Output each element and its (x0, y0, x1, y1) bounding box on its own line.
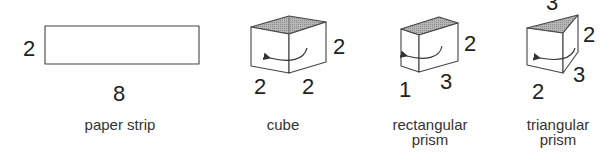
rectangular-prism-figure: 2 1 3 rectangular prism (392, 17, 476, 148)
tri-prism-caption-line2: prism (540, 131, 577, 148)
rect-prism-caption-line2: prism (412, 131, 449, 148)
rect-prism-front-face (401, 29, 419, 72)
cube-front-face (251, 27, 289, 73)
tri-prism-front-face (527, 28, 563, 73)
rect-prism-height-label: 2 (464, 31, 476, 56)
rect-prism-front-width-label: 1 (399, 77, 411, 102)
tri-prism-top-edge-label: 3 (546, 0, 558, 15)
cube-figure: 2 2 2 cube (251, 16, 345, 133)
cube-caption: cube (267, 116, 300, 133)
triangular-prism-figure: 3 2 3 2 triangular prism (527, 0, 596, 148)
paper-strip-figure: 2 8 paper strip (23, 26, 199, 133)
paper-strip-length-label: 8 (113, 81, 125, 106)
cube-height-label: 2 (333, 34, 345, 59)
tri-prism-side-width-label: 3 (573, 62, 585, 87)
tri-prism-front-width-label: 2 (532, 79, 544, 104)
paper-strip-caption: paper strip (85, 116, 156, 133)
rect-prism-side-width-label: 3 (440, 69, 452, 94)
cube-side-width-label: 2 (302, 74, 314, 99)
paper-strip-rectangle (45, 26, 199, 64)
cube-front-width-label: 2 (254, 74, 266, 99)
tri-prism-height-label: 2 (583, 22, 595, 47)
diagram-canvas: 2 8 paper strip 2 2 2 cube 2 1 3 rectang… (0, 0, 611, 155)
paper-strip-height-label: 2 (23, 36, 35, 61)
